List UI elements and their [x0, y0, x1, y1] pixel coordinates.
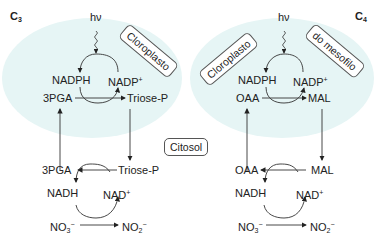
no2-left: NO2−: [122, 219, 147, 237]
citosol-box: Citosol: [164, 138, 208, 156]
nadh-left: NADH: [47, 187, 78, 199]
light-label-right: hν: [278, 11, 290, 23]
oaa-cytosol: OAA: [235, 164, 258, 176]
chloroplast-left: [2, 18, 182, 138]
oaa-chloro: OAA: [236, 92, 259, 104]
nadh-right: NADH: [235, 187, 266, 199]
3pga-chloro: 3PGA: [43, 92, 72, 104]
mal-cytosol: MAL: [311, 164, 334, 176]
nadph-left: NADPH: [52, 74, 91, 86]
c4-title: C4: [355, 10, 367, 23]
no3-left: NO3−: [50, 219, 75, 237]
nad-left: NAD+: [103, 187, 130, 201]
nadp-left: NADP+: [108, 74, 143, 88]
triose-p-cytosol: Triose-P: [118, 164, 159, 176]
c3-title: C3: [10, 10, 22, 23]
nadp-right: NADP+: [293, 74, 328, 88]
triose-p-chloro: Triose-P: [127, 92, 168, 104]
nad-right: NAD+: [296, 187, 323, 201]
nadph-right: NADPH: [238, 74, 277, 86]
light-label-left: hν: [90, 11, 102, 23]
no2-right: NO2−: [310, 219, 335, 237]
3pga-cytosol: 3PGA: [42, 164, 71, 176]
mal-chloro: MAL: [308, 92, 331, 104]
no3-right: NO3−: [238, 219, 263, 237]
